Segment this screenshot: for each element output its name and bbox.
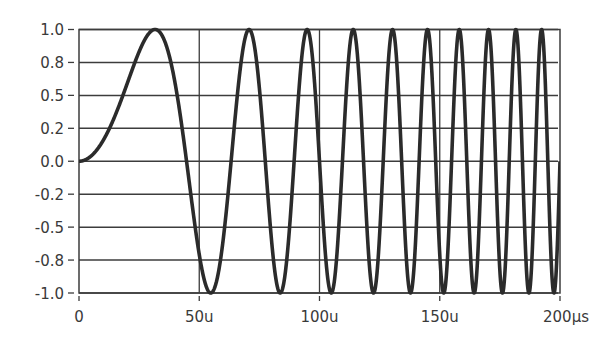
x-tick-label: 100u: [300, 308, 338, 326]
y-tick-label: 0.0: [40, 153, 64, 171]
x-tick-label: 200µs: [543, 308, 589, 326]
y-tick-label: 0.8: [40, 54, 64, 72]
x-tick-label: 0: [74, 308, 84, 326]
y-tick-label: -0.5: [35, 219, 64, 237]
y-tick-label: 0.2: [40, 120, 64, 138]
chirp-chart: 1.00.80.50.20.0-0.2-0.5-0.8-1.0 050u100u…: [0, 0, 615, 346]
x-tick-label: 150u: [421, 308, 459, 326]
y-tick-label: 0.5: [40, 87, 64, 105]
y-tick-label: -0.8: [35, 252, 64, 270]
x-axis: 050u100u150u200µs: [74, 296, 589, 326]
x-tick-label: 50u: [185, 308, 214, 326]
y-tick-label: -1.0: [35, 285, 64, 303]
y-axis: 1.00.80.50.20.0-0.2-0.5-0.8-1.0: [35, 21, 74, 303]
y-tick-label: -0.2: [35, 186, 64, 204]
y-tick-label: 1.0: [40, 21, 64, 39]
